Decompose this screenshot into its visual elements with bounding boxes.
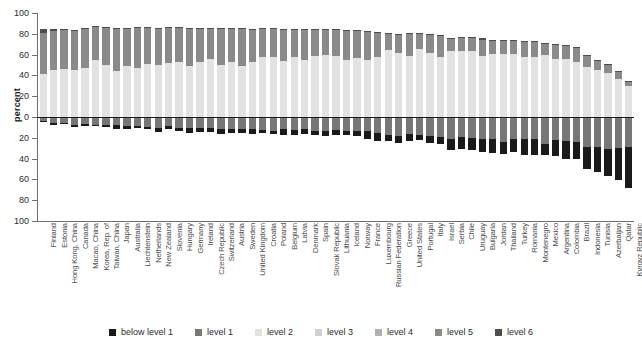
bar-segment <box>123 66 130 117</box>
bar-segment <box>395 117 402 136</box>
bar-segment <box>447 117 454 139</box>
bar-segment <box>447 51 454 117</box>
bar-segment <box>531 117 538 139</box>
x-tick-label: Germany <box>193 223 202 254</box>
bar-segment <box>583 55 590 56</box>
x-tick-label: Romania <box>527 223 536 253</box>
bar-segment <box>531 41 538 42</box>
bar-segment <box>228 29 235 62</box>
bar-segment <box>479 40 486 57</box>
bar-segment <box>123 29 130 66</box>
bar-segment <box>280 30 287 61</box>
bar-segment <box>280 61 287 117</box>
x-tick-label: Serbia <box>454 223 463 244</box>
bar-segment <box>217 28 224 29</box>
x-tick-label: Montenegro <box>538 223 547 263</box>
bar-segment <box>238 28 245 29</box>
bar-segment <box>562 45 569 46</box>
legend-label: level 6 <box>507 327 533 337</box>
bar-segment <box>322 131 329 136</box>
legend-item[interactable]: below level 1 <box>109 327 173 337</box>
legend-item[interactable]: level 5 <box>435 327 473 337</box>
bar-segment <box>500 142 507 154</box>
x-tick-label: Iceland <box>349 223 358 247</box>
bar-segment <box>573 117 580 142</box>
bar-segment <box>353 30 360 31</box>
bar-segment <box>165 117 172 126</box>
x-tick-label: Norway <box>360 223 369 248</box>
legend-item[interactable]: level 2 <box>255 327 293 337</box>
bar-segment <box>500 40 507 41</box>
bar-segment <box>301 117 308 129</box>
bar-segment <box>416 33 423 34</box>
x-tick-label: Hong Kong, China <box>67 223 76 283</box>
legend-item[interactable]: level 1 <box>195 327 233 337</box>
bar-segment <box>541 44 548 54</box>
bar-segment <box>280 117 287 129</box>
x-tick-label: Canada <box>78 223 87 249</box>
bar-segment <box>259 117 266 130</box>
bar-segment <box>625 82 632 86</box>
y-tick-label: 80 <box>0 195 29 205</box>
bar-segment <box>447 39 454 51</box>
bar-segment <box>50 31 57 71</box>
bar-segment <box>594 60 601 61</box>
bar-segment <box>364 131 371 139</box>
bar-segment <box>60 30 67 68</box>
legend-label: below level 1 <box>121 327 173 337</box>
bar-segment <box>217 65 224 117</box>
x-tick-label: Ireland <box>203 223 212 246</box>
x-tick-label: New Zealand <box>161 223 170 267</box>
x-tick-label: Indonesia <box>590 223 599 255</box>
y-axis-ticks: 10080604020020406080100 <box>0 0 38 349</box>
bar-segment <box>186 128 193 132</box>
x-tick-label: United States <box>412 223 421 267</box>
bar-segment <box>521 117 528 139</box>
bar-segment <box>134 28 141 68</box>
bar-segment <box>510 41 517 54</box>
x-tick-label: Colombia <box>569 223 578 254</box>
bar-segment <box>40 74 47 117</box>
bar-segment <box>81 124 88 126</box>
bar-segment <box>426 34 433 35</box>
bar-segment <box>468 138 475 150</box>
y-tick-label: 100 <box>0 8 29 18</box>
bar-segment <box>123 117 130 126</box>
bar-segment <box>395 136 402 144</box>
bar-segment <box>60 29 67 31</box>
bar-segment <box>489 41 496 53</box>
bar-segment <box>175 62 182 117</box>
bar-segment <box>291 130 298 135</box>
bar-segment <box>81 29 88 69</box>
bar-segment <box>291 29 298 30</box>
bar-segment <box>406 134 413 142</box>
x-tick-label: Greece <box>402 223 411 247</box>
legend-swatch-icon <box>375 329 382 336</box>
bar-segment <box>113 29 120 72</box>
bar-segment <box>238 117 245 129</box>
x-tick-label: Uruguay <box>475 223 484 251</box>
bar-segment <box>479 38 486 39</box>
bar-segment <box>311 30 318 56</box>
bar-segment <box>311 56 318 117</box>
legend-item[interactable]: level 4 <box>375 327 413 337</box>
x-tick-label: Estonia <box>57 223 66 248</box>
x-tick-label: Turkey <box>517 223 526 245</box>
bar-segment <box>468 51 475 117</box>
bar-segment <box>207 117 214 128</box>
zero-baseline <box>37 117 634 118</box>
bar-segment <box>155 65 162 117</box>
bar-segment <box>196 117 203 128</box>
bar-segment <box>437 117 444 137</box>
legend-item[interactable]: level 3 <box>315 327 353 337</box>
bar-segment <box>155 28 162 29</box>
bar-segment <box>573 47 580 48</box>
bar-segment <box>332 29 339 30</box>
bar-segment <box>562 59 569 117</box>
bar-segment <box>270 117 277 131</box>
legend-item[interactable]: level 6 <box>495 327 533 337</box>
x-tick-label: Latvia <box>297 223 306 243</box>
bar-segment <box>552 117 559 140</box>
bar-segment <box>186 66 193 117</box>
bar-segment <box>92 60 99 117</box>
